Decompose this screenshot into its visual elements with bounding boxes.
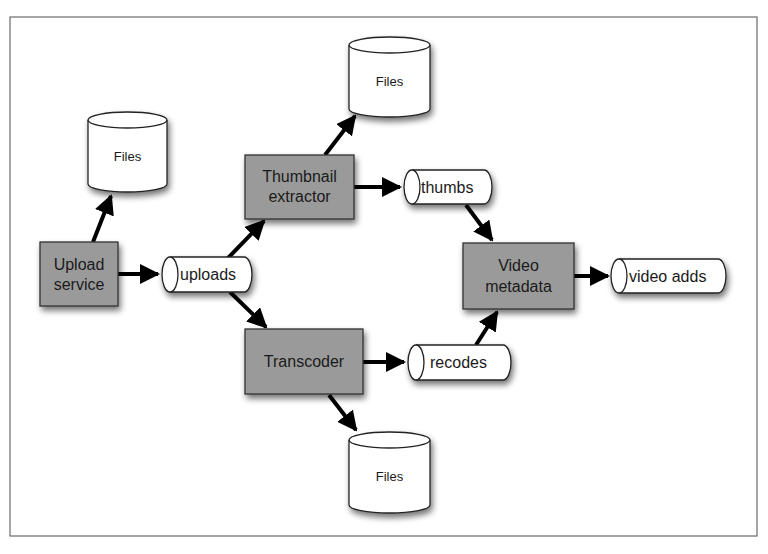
upload-service-label-2: service — [54, 276, 105, 293]
thumbnail-extractor-label-1: Thumbnail — [262, 168, 337, 185]
video-adds-queue-label: video adds — [629, 268, 706, 285]
upload-service-box — [40, 242, 118, 306]
video-metadata-box — [463, 243, 574, 309]
files-store-thumbnail-label: Files — [376, 74, 404, 89]
files-store-transcoder-label: Files — [376, 469, 404, 484]
uploads-queue-label: uploads — [180, 266, 236, 283]
video-metadata-label-2: metadata — [485, 278, 552, 295]
thumbs-queue-label: thumbs — [421, 179, 473, 196]
upload-service-label-1: Upload — [54, 256, 105, 273]
thumbnail-extractor-box — [245, 155, 354, 219]
thumbnail-extractor-label-2: extractor — [268, 188, 331, 205]
files-store-upload-label: Files — [114, 149, 142, 164]
video-metadata-label-1: Video — [498, 257, 539, 274]
architecture-diagram: Files Files Files uploads thumbs recodes… — [0, 0, 768, 554]
transcoder-label: Transcoder — [264, 353, 345, 370]
recodes-queue-label: recodes — [430, 354, 487, 371]
